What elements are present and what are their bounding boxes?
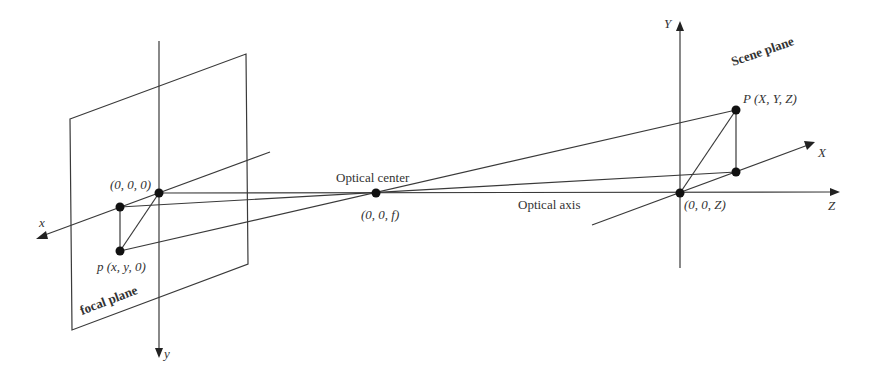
optical-axis-line [159, 192, 830, 193]
image-diagonal-segment [120, 193, 159, 251]
image-x-arrowhead [36, 231, 48, 239]
ray-P-to-p [120, 110, 736, 251]
scene-X-label: X [817, 145, 827, 160]
scene-Z-label: Z [828, 198, 836, 213]
scene-origin-label: (0, 0, Z) [684, 197, 726, 212]
origin-label: (0, 0, 0) [110, 177, 151, 192]
pinhole-projection-diagram: (0, 0, 0) p (x, y, 0) x y focal plane Op… [0, 0, 870, 384]
scene-diagonal-segment [680, 110, 736, 193]
image-x-projection-point [116, 203, 125, 212]
scene-X-axis [592, 145, 808, 225]
scene-Z-arrowhead [830, 188, 840, 196]
image-point-label: p (x, y, 0) [96, 259, 146, 274]
center-point-label: (0, 0, f) [361, 207, 399, 222]
scene-X-projection-point [732, 168, 741, 177]
scene-plane-label: Scene plane [729, 33, 796, 69]
optical-center-label: Optical center [336, 170, 410, 185]
scene-point-P [732, 106, 741, 115]
scene-Y-label: Y [664, 16, 673, 31]
optical-center-point [372, 189, 381, 198]
ray-X-proj-to-x-proj [120, 172, 736, 207]
image-x-label: x [38, 215, 45, 230]
origin-point [155, 189, 164, 198]
scene-point-label: P (X, Y, Z) [742, 91, 797, 106]
scene-X-arrowhead [804, 141, 815, 150]
scene-Y-arrowhead [676, 21, 684, 31]
image-y-label: y [162, 346, 170, 361]
optical-axis-label: Optical axis [518, 197, 580, 212]
image-y-arrowhead [155, 348, 163, 358]
focal-plane-label: focal plane [78, 282, 140, 318]
image-point-p [116, 247, 125, 256]
